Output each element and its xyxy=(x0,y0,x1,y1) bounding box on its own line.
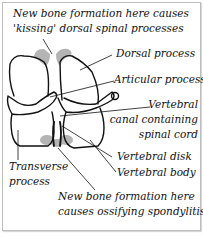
right-dorsal-process xyxy=(60,56,98,104)
label-vertebral-body: Vertebral body xyxy=(117,166,196,179)
label-canal-line3: spinal cord xyxy=(139,128,198,141)
label-transverse-line2: process xyxy=(9,175,50,188)
label-articular-process: Articular process xyxy=(114,73,203,86)
left-dorsal-process xyxy=(10,56,49,96)
new-bone-kissing-area xyxy=(34,49,72,66)
label-canal-line1: Vertebral xyxy=(148,98,198,111)
label-kissing-line2: 'kissing' dorsal spinal processes xyxy=(13,22,184,35)
label-spondylitis-line2: causes ossifying spondylitis xyxy=(58,205,203,218)
label-canal-line2: canal containing xyxy=(110,113,198,126)
label-vertebral-disk: Vertebral disk xyxy=(117,150,192,163)
label-transverse-line1: Transverse xyxy=(9,160,68,173)
label-spondylitis-line1: New bone formation here xyxy=(58,190,195,203)
label-dorsal-process: Dorsal process xyxy=(116,47,195,60)
label-kissing-line1: New bone formation here causes xyxy=(13,7,189,20)
